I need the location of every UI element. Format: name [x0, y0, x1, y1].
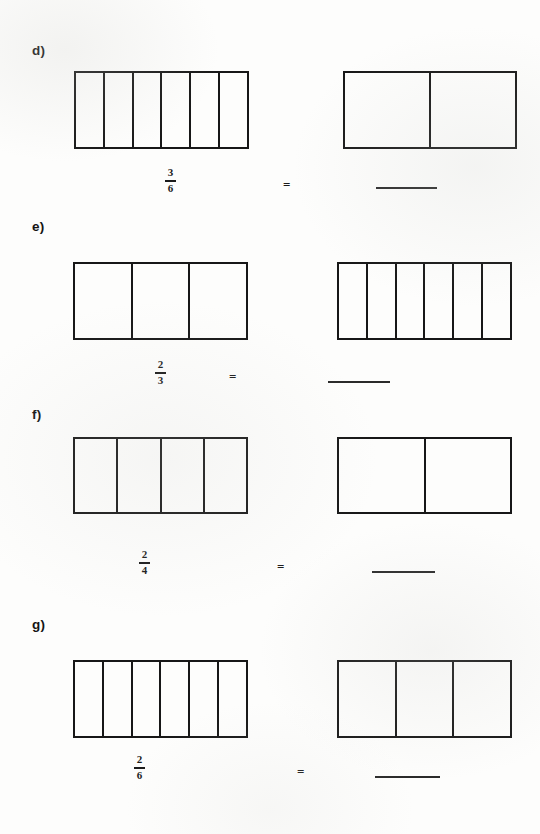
fraction-numerator: 2: [135, 754, 145, 766]
fraction-numerator: 3: [166, 167, 176, 179]
fraction-f: 2 4: [139, 549, 150, 577]
fraction-denominator: 3: [156, 375, 166, 387]
equals-sign-f: =: [277, 559, 284, 575]
bar-cell[interactable]: [431, 73, 515, 147]
worksheet-page: d) 3 6 = e): [0, 0, 540, 834]
bar-cell[interactable]: [339, 662, 397, 736]
bar-cell[interactable]: [191, 73, 220, 147]
fraction-d: 3 6: [165, 167, 176, 195]
fraction-g: 2 6: [134, 754, 145, 782]
bar-cell[interactable]: [205, 439, 246, 512]
bar-cell[interactable]: [105, 73, 134, 147]
bar-cell[interactable]: [190, 264, 246, 338]
fraction-numerator: 2: [156, 359, 166, 371]
equals-sign-e: =: [229, 369, 236, 385]
equals-sign-d: =: [283, 177, 290, 193]
bar-cell[interactable]: [118, 439, 161, 512]
answer-blank-e[interactable]: [328, 381, 390, 383]
fraction-e: 2 3: [155, 359, 166, 387]
bar-cell[interactable]: [219, 662, 246, 736]
bar-cell[interactable]: [75, 439, 118, 512]
bar-cell[interactable]: [454, 264, 483, 338]
answer-blank-f[interactable]: [372, 571, 435, 573]
fraction-denominator: 6: [166, 183, 176, 195]
bar-cell[interactable]: [483, 264, 510, 338]
fraction-denominator: 6: [135, 770, 145, 782]
bar-cell[interactable]: [345, 73, 431, 147]
bar-model-left-g[interactable]: [73, 660, 248, 738]
item-label-e: e): [32, 219, 44, 234]
bar-cell[interactable]: [339, 439, 426, 512]
bar-cell[interactable]: [134, 73, 163, 147]
bar-model-left-d[interactable]: [74, 71, 249, 149]
equals-sign-g: =: [297, 764, 304, 780]
bar-model-left-f[interactable]: [73, 437, 248, 514]
answer-blank-d[interactable]: [376, 187, 437, 189]
bar-cell[interactable]: [454, 662, 510, 736]
bar-model-right-d[interactable]: [343, 71, 517, 149]
item-label-d: d): [32, 43, 45, 58]
answer-blank-g[interactable]: [375, 776, 440, 778]
bar-cell[interactable]: [397, 662, 455, 736]
bar-model-right-e[interactable]: [337, 262, 512, 340]
bar-cell[interactable]: [190, 662, 219, 736]
bar-model-right-f[interactable]: [337, 437, 512, 514]
fraction-numerator: 2: [140, 549, 150, 561]
bar-cell[interactable]: [76, 73, 105, 147]
bar-cell[interactable]: [133, 264, 191, 338]
bar-cell[interactable]: [133, 662, 162, 736]
bar-cell[interactable]: [368, 264, 397, 338]
bar-cell[interactable]: [75, 662, 104, 736]
bar-cell[interactable]: [425, 264, 454, 338]
bar-cell[interactable]: [162, 439, 205, 512]
bar-cell[interactable]: [162, 73, 191, 147]
bar-cell[interactable]: [426, 439, 511, 512]
item-label-f: f): [32, 407, 41, 422]
bar-model-right-g[interactable]: [337, 660, 512, 738]
item-label-g: g): [32, 617, 45, 632]
bar-cell[interactable]: [339, 264, 368, 338]
bar-model-left-e[interactable]: [73, 262, 248, 340]
bar-cell[interactable]: [397, 264, 426, 338]
fraction-denominator: 4: [140, 565, 150, 577]
bar-cell[interactable]: [161, 662, 190, 736]
bar-cell[interactable]: [220, 73, 247, 147]
bar-cell[interactable]: [104, 662, 133, 736]
bar-cell[interactable]: [75, 264, 133, 338]
